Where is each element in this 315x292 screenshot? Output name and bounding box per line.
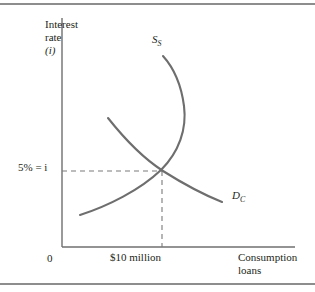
demand-curve	[108, 118, 222, 202]
origin-label: 0	[47, 252, 53, 265]
y-axis-title-line1: Interest	[45, 18, 78, 31]
demand-curve-label-main: D	[232, 189, 240, 201]
y-axis-tick-value: 5% = i	[18, 161, 47, 173]
y-axis-tick-label: 5% = i	[18, 161, 47, 174]
figure-container: Interest rate (i) 5% = i $10 million 0 C…	[0, 0, 315, 292]
y-axis-title: Interest rate (i)	[45, 18, 78, 57]
demand-curve-label-subscript: C	[240, 195, 245, 204]
x-axis-title: Consumption loans	[238, 251, 297, 277]
y-axis-title-line3: (i)	[45, 44, 78, 57]
supply-curve-label-subscript: S	[158, 39, 162, 48]
x-axis-title-line2: loans	[238, 264, 297, 277]
x-axis-tick-label: $10 million	[110, 251, 161, 264]
supply-curve	[80, 56, 185, 215]
y-axis-title-line2: rate	[45, 31, 78, 44]
x-axis-title-line1: Consumption	[238, 251, 297, 264]
supply-curve-label: SS	[152, 33, 161, 49]
demand-curve-label: DC	[232, 189, 245, 205]
